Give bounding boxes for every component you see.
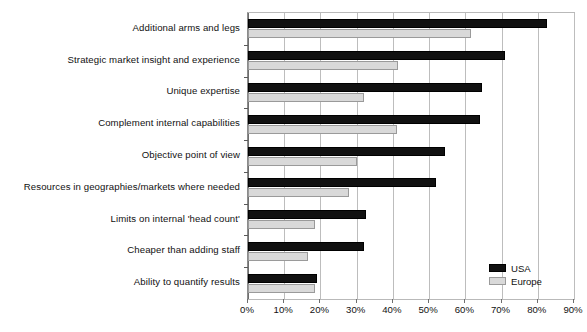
x-tick-label: 40% [382,304,401,315]
bar-europe [248,284,315,293]
category-label: Unique expertise [0,85,240,96]
bar-europe [248,61,398,70]
category-tick-mark [244,140,248,141]
bar-usa [248,210,366,219]
x-tick-label: 80% [527,304,546,315]
x-tick-label: 50% [419,304,438,315]
legend-swatch-europe [489,277,506,285]
category-label: Ability to quantify results [0,276,240,287]
x-tick-mark [319,299,320,303]
bar-europe [248,29,471,38]
bar-usa [248,147,445,156]
x-tick-mark [247,299,248,303]
category-tick-mark [244,108,248,109]
x-tick-label: 0% [240,304,254,315]
bar-usa [248,19,547,28]
bar-europe [248,220,315,229]
category-tick-mark [244,267,248,268]
bar-usa [248,83,482,92]
x-tick-label: 10% [274,304,293,315]
category-label: Complement internal capabilities [0,117,240,128]
legend-swatch-usa [489,264,506,272]
legend-label-europe: Europe [511,276,542,287]
bar-europe [248,188,349,197]
x-tick-label: 30% [346,304,365,315]
x-axis: 0%10%20%30%40%50%60%70%80%90% [247,299,573,319]
chart-legend: USA Europe [489,262,559,288]
x-tick-mark [283,299,284,303]
category-tick-mark [244,45,248,46]
legend-label-usa: USA [511,263,531,274]
category-tick-mark [244,172,248,173]
bar-europe [248,157,357,166]
category-label: Strategic market insight and experience [0,54,240,65]
category-label: Resources in geographies/markets where n… [0,181,240,192]
bar-usa [248,242,364,251]
category-label: Additional arms and legs [0,22,240,33]
x-tick-mark [392,299,393,303]
category-label: Cheaper than adding staff [0,244,240,255]
category-label: Limits on internal 'head count' [0,213,240,224]
category-axis-labels: Additional arms and legsStrategic market… [0,12,244,298]
legend-item-usa: USA [489,262,559,274]
category-tick-mark [244,235,248,236]
x-tick-mark [573,299,574,303]
bar-usa [248,274,317,283]
category-tick-mark [244,204,248,205]
category-tick-mark [244,77,248,78]
category-label: Objective point of view [0,149,240,160]
x-tick-label: 70% [491,304,510,315]
x-tick-mark [537,299,538,303]
x-tick-mark [428,299,429,303]
bar-usa [248,178,436,187]
bar-chart: Additional arms and legsStrategic market… [0,0,587,332]
legend-item-europe: Europe [489,275,559,287]
x-tick-label: 90% [563,304,582,315]
bar-usa [248,115,480,124]
plot-area [247,12,575,300]
x-tick-label: 60% [455,304,474,315]
gridline-80% [538,13,539,299]
bar-europe [248,252,308,261]
bar-europe [248,93,364,102]
bar-europe [248,125,397,134]
x-tick-mark [501,299,502,303]
x-tick-mark [356,299,357,303]
x-tick-label: 20% [310,304,329,315]
x-tick-mark [464,299,465,303]
bar-usa [248,51,505,60]
gridline-90% [574,13,575,299]
